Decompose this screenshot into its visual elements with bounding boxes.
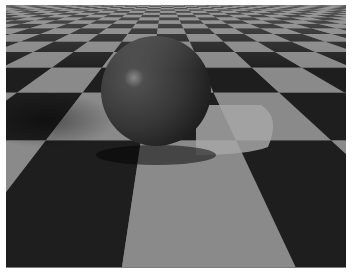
scene-canvas xyxy=(6,5,346,268)
rendered-scene xyxy=(6,5,346,268)
horizon-haze xyxy=(6,5,346,268)
